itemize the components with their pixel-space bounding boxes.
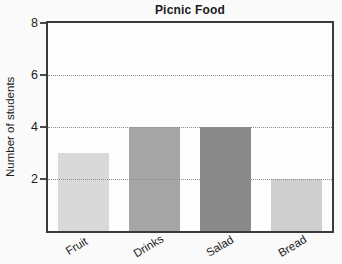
y-tick-label-6: 6 <box>22 68 38 83</box>
x-tick-label-drinks: Drinks <box>131 232 165 259</box>
x-tick-label-salad: Salad <box>204 233 235 258</box>
x-tick-label-bread: Bread <box>276 233 308 259</box>
gridline-4 <box>48 127 332 128</box>
y-tick-8 <box>40 22 46 24</box>
y-axis-label: Number of students <box>1 21 18 233</box>
gridline-6 <box>48 75 332 76</box>
y-tick-label-4: 4 <box>22 120 38 135</box>
y-tick-label-8: 8 <box>22 16 38 31</box>
x-labels: FruitDrinksSaladBread <box>46 233 334 264</box>
x-label-slot-bread: Bread <box>262 233 334 264</box>
plot-area <box>46 21 334 233</box>
x-label-slot-fruit: Fruit <box>46 233 118 264</box>
bar-fruit <box>58 153 109 231</box>
y-tick-label-2: 2 <box>22 172 38 187</box>
chart-title: Picnic Food <box>46 3 334 17</box>
x-label-slot-drinks: Drinks <box>118 233 190 264</box>
gridline-2 <box>48 179 332 180</box>
bar-bread <box>271 179 322 231</box>
y-tick-6 <box>40 74 46 76</box>
y-tick-4 <box>40 126 46 128</box>
bar-chart: Picnic Food Number of students 2468 Frui… <box>0 0 342 264</box>
x-label-slot-salad: Salad <box>190 233 262 264</box>
x-tick-label-fruit: Fruit <box>63 235 89 257</box>
y-tick-2 <box>40 178 46 180</box>
